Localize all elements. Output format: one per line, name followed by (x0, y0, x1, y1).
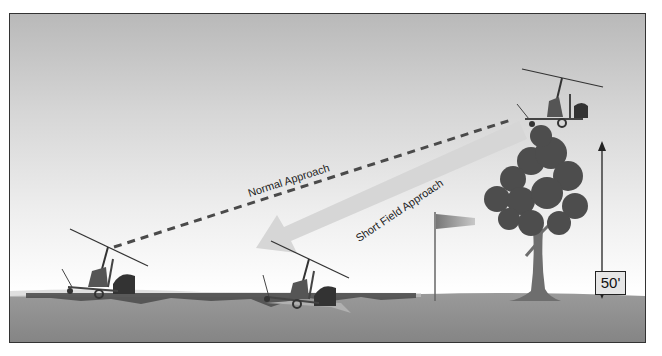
windsock (435, 212, 475, 301)
gyroplane-normal-touchdown (62, 229, 148, 298)
tree (484, 125, 588, 301)
obstacle-height-label: 50' (595, 271, 626, 295)
diagram-frame: Normal Approach Short Field Approach 50' (9, 13, 646, 343)
gyroplane-in-flight (517, 69, 603, 127)
approach-scene (10, 14, 646, 343)
short-field-approach-arrow (256, 121, 527, 253)
